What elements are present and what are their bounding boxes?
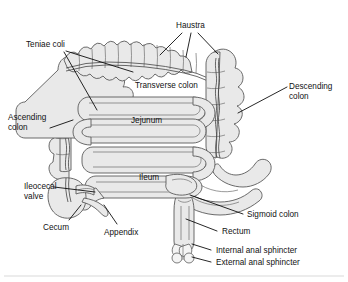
label-jejunum: Jejunum xyxy=(131,116,162,126)
leader-external-anal-sphincter xyxy=(192,257,211,262)
anatomy-diagram: .organ { fill:#e9e9e9; stroke:#5a5a5a; s… xyxy=(0,0,348,282)
label-haustra: Haustra xyxy=(176,21,205,31)
leader-haustra-c xyxy=(198,33,218,54)
label-ileocecal-valve-line2: valve xyxy=(24,192,43,202)
label-sigmoid-colon: Sigmoid colon xyxy=(247,210,299,220)
label-external-anal-sphincter: External anal sphincter xyxy=(216,258,300,268)
leader-haustra-b xyxy=(186,33,191,57)
leader-internal-anal-sphincter xyxy=(192,244,211,250)
label-ascending-colon-line2: colon xyxy=(8,123,28,133)
label-teniae-coli: Teniae coli xyxy=(26,40,65,50)
label-cecum: Cecum xyxy=(43,223,69,233)
label-ascending-colon-line1: Ascending xyxy=(8,113,46,123)
anal-sphincter-shape xyxy=(172,244,194,263)
label-ileum: Ileum xyxy=(139,173,159,183)
label-internal-anal-sphincter: Internal anal sphincter xyxy=(216,246,297,256)
label-descending-colon-line2: colon xyxy=(289,92,309,102)
rectum-shape xyxy=(174,191,194,254)
label-transverse-colon: Transverse colon xyxy=(135,81,198,91)
label-appendix: Appendix xyxy=(104,228,138,238)
label-rectum: Rectum xyxy=(222,227,250,237)
leader-descending-colon xyxy=(238,87,287,113)
label-ileocecal-valve-line1: Ileocecal xyxy=(24,182,57,192)
label-descending-colon-line1: Descending xyxy=(289,82,332,92)
